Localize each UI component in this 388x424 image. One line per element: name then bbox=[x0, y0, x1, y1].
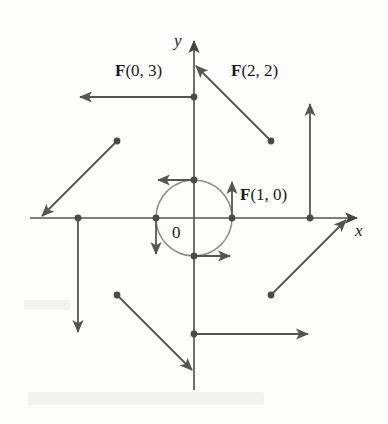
vector-label-f-0-3-symbol: F bbox=[115, 61, 125, 80]
point-unit-1-0 bbox=[229, 215, 236, 222]
point-unit-m1-0 bbox=[153, 215, 160, 222]
vector-label-f-1-0-args: (1, 0) bbox=[250, 185, 287, 204]
point-m2-m2 bbox=[114, 292, 121, 299]
point-2-2 bbox=[268, 138, 275, 145]
point-m3-0 bbox=[75, 215, 82, 222]
y-axis-label: y bbox=[174, 32, 182, 49]
vector-label-f-0-3-args: (0, 3) bbox=[125, 61, 162, 80]
point-0-m3 bbox=[191, 331, 198, 338]
vector-m2-2 bbox=[42, 141, 117, 216]
point-3-0 bbox=[307, 215, 314, 222]
vector-2-m2 bbox=[271, 220, 346, 295]
vector-field-figure: y x 0 F(0, 3) F(2, 2) F(1, 0) bbox=[0, 0, 388, 424]
vector-label-f-2-2-symbol: F bbox=[231, 61, 241, 80]
point-unit-0-m1 bbox=[191, 253, 198, 260]
vector-label-f-1-0-symbol: F bbox=[240, 185, 250, 204]
point-0-3 bbox=[191, 94, 198, 101]
point-unit-0-1 bbox=[191, 177, 198, 184]
vector-label-f-0-3: F(0, 3) bbox=[115, 62, 162, 79]
vector-field-canvas bbox=[0, 0, 388, 424]
point-2-m2 bbox=[268, 292, 275, 299]
vector-label-f-1-0: F(1, 0) bbox=[240, 186, 287, 203]
x-axis-label: x bbox=[355, 222, 363, 239]
point-m2-2 bbox=[114, 138, 121, 145]
vector-m2-m2 bbox=[117, 295, 192, 370]
origin-label: 0 bbox=[172, 224, 181, 241]
vector-label-f-2-2-args: (2, 2) bbox=[241, 61, 278, 80]
vector-label-f-2-2: F(2, 2) bbox=[231, 62, 278, 79]
